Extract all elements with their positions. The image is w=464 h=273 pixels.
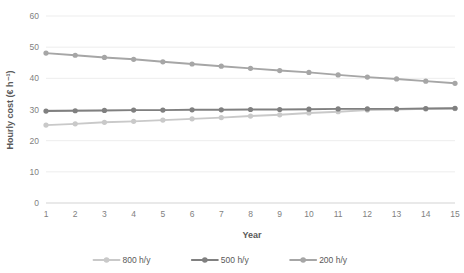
legend-marker <box>300 257 306 263</box>
legend-label: 500 h/y <box>221 255 250 265</box>
x-tick-label: 5 <box>160 209 165 219</box>
x-tick-label: 8 <box>248 209 253 219</box>
data-point <box>219 107 224 112</box>
x-tick-label: 4 <box>131 209 136 219</box>
data-point <box>102 108 107 113</box>
data-point <box>277 112 282 117</box>
data-point <box>452 106 457 111</box>
data-point <box>102 55 107 60</box>
series-lines <box>43 50 457 127</box>
data-point <box>306 70 311 75</box>
x-tick-label: 15 <box>450 209 460 219</box>
y-tick-label: 20 <box>30 136 40 146</box>
data-point <box>189 61 194 66</box>
data-point <box>219 115 224 120</box>
x-tick-label: 12 <box>363 209 373 219</box>
legend-marker <box>202 257 208 263</box>
legend: 800 h/y500 h/y200 h/y <box>94 255 348 265</box>
data-point <box>131 108 136 113</box>
legend-item-500-h-y[interactable]: 500 h/y <box>192 255 250 265</box>
data-point <box>248 107 253 112</box>
legend-label: 200 h/y <box>319 255 348 265</box>
x-tick-label: 11 <box>334 209 343 219</box>
data-point <box>43 108 48 113</box>
data-point <box>423 106 428 111</box>
data-point <box>189 107 194 112</box>
data-point <box>43 122 48 127</box>
line-chart: 0102030405060 123456789101112131415 800 … <box>0 0 464 273</box>
x-tick-label: 14 <box>421 209 431 219</box>
data-point <box>73 121 78 126</box>
data-point <box>131 119 136 124</box>
y-tick-label: 40 <box>30 73 40 83</box>
data-point <box>160 59 165 64</box>
chart-canvas: 0102030405060 123456789101112131415 800 … <box>0 0 464 273</box>
y-tick-label: 30 <box>30 105 40 115</box>
data-point <box>248 66 253 71</box>
data-point <box>394 106 399 111</box>
legend-label: 800 h/y <box>123 255 152 265</box>
x-axis-ticks: 123456789101112131415 <box>44 209 460 219</box>
x-tick-label: 10 <box>304 209 314 219</box>
data-point <box>452 81 457 86</box>
data-point <box>219 64 224 69</box>
x-tick-label: 2 <box>73 209 78 219</box>
data-point <box>102 120 107 125</box>
data-point <box>131 57 136 62</box>
data-point <box>394 76 399 81</box>
data-point <box>43 50 48 55</box>
x-tick-label: 1 <box>44 209 49 219</box>
x-tick-label: 6 <box>190 209 195 219</box>
data-point <box>365 74 370 79</box>
series-200-h-y <box>43 50 457 85</box>
y-tick-label: 60 <box>30 11 40 21</box>
x-axis-title: Year <box>242 230 262 240</box>
data-point <box>160 108 165 113</box>
legend-marker <box>104 257 110 263</box>
data-point <box>423 79 428 84</box>
data-point <box>248 113 253 118</box>
x-tick-label: 7 <box>219 209 224 219</box>
x-tick-label: 3 <box>102 209 107 219</box>
x-tick-label: 9 <box>277 209 282 219</box>
data-point <box>73 53 78 58</box>
data-point <box>160 117 165 122</box>
data-point <box>277 68 282 73</box>
data-point <box>306 107 311 112</box>
y-axis-ticks: 0102030405060 <box>30 11 40 208</box>
y-tick-label: 0 <box>34 198 39 208</box>
data-point <box>336 72 341 77</box>
data-point <box>365 106 370 111</box>
data-point <box>189 116 194 121</box>
data-point <box>336 106 341 111</box>
y-tick-label: 10 <box>30 167 40 177</box>
data-point <box>277 107 282 112</box>
y-axis-title: Hourly cost (€ h⁻¹) <box>5 70 15 149</box>
x-tick-label: 13 <box>392 209 402 219</box>
y-tick-label: 50 <box>30 42 40 52</box>
legend-item-200-h-y[interactable]: 200 h/y <box>290 255 348 265</box>
data-point <box>73 108 78 113</box>
legend-item-800-h-y[interactable]: 800 h/y <box>94 255 152 265</box>
series-500-h-y <box>43 106 457 114</box>
